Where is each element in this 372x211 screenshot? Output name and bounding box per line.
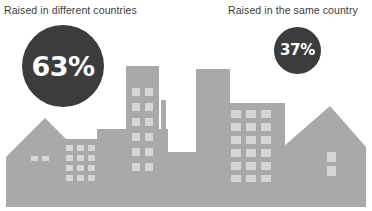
infographic-root: Raised in different countries Raised in …: [0, 0, 372, 211]
low-connector-block: [155, 152, 203, 187]
percentage-value-same: 37%: [280, 43, 315, 58]
right-house-window: [327, 166, 336, 176]
percentage-circle-different-countries: 63%: [22, 25, 104, 107]
right-house-window: [327, 152, 336, 162]
percentage-value-different: 63%: [31, 53, 94, 80]
left-house-window: [42, 156, 49, 161]
percentage-circle-same-country: 37%: [274, 27, 321, 74]
mid-tower: [126, 66, 159, 187]
right-house: [283, 106, 366, 187]
left-house-window: [31, 156, 38, 161]
